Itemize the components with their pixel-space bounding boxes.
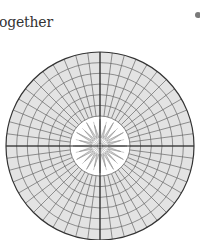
polar-grid xyxy=(6,52,194,240)
polar-grid-diagram xyxy=(0,0,200,240)
